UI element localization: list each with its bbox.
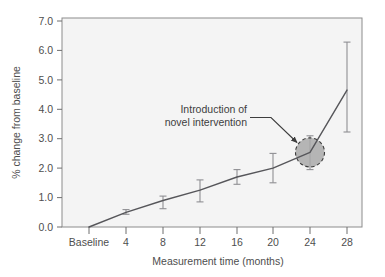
x-tick-label: 16 (231, 236, 243, 248)
y-tick-label: 6.0 (38, 44, 53, 56)
chart-figure: 0.0 1.0 2.0 3.0 4.0 5.0 6.0 7.0 % change… (0, 0, 385, 277)
annotation-line-1: Introduction of (180, 103, 247, 115)
x-tick-label: 24 (304, 236, 316, 248)
y-tick-label: 1.0 (38, 191, 53, 203)
x-tick-label: 12 (194, 236, 206, 248)
x-tick-label: 20 (267, 236, 279, 248)
y-tick-label: 3.0 (38, 132, 53, 144)
x-tick-label: 4 (123, 236, 129, 248)
y-tick-label: 5.0 (38, 74, 53, 86)
y-tick-label: 4.0 (38, 103, 53, 115)
x-tick-label: Baseline (69, 236, 109, 248)
annotation-line-2: novel intervention (165, 116, 247, 128)
y-tick-label: 0.0 (38, 221, 53, 233)
x-tick-label: 28 (341, 236, 353, 248)
y-tick-label: 2.0 (38, 162, 53, 174)
x-axis-title: Measurement time (months) (152, 255, 283, 267)
chart-canvas: 0.0 1.0 2.0 3.0 4.0 5.0 6.0 7.0 % change… (0, 0, 385, 277)
y-axis-title: % change from baseline (10, 66, 22, 179)
y-tick-label: 7.0 (38, 15, 53, 27)
x-tick-label: 8 (160, 236, 166, 248)
